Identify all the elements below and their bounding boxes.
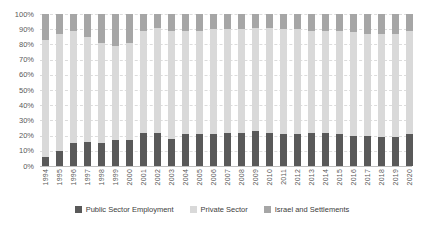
- gridline: [40, 166, 412, 167]
- x-axis-tick-label: 1996: [69, 169, 79, 199]
- x-axis-tick-label: 1998: [97, 169, 107, 199]
- bar-segment: [308, 31, 315, 133]
- bar-segment: [42, 40, 49, 157]
- x-axis-tick-label: 2007: [223, 169, 233, 199]
- x-axis-tick-label: 2020: [405, 169, 415, 199]
- bar-segment: [266, 28, 273, 133]
- x-axis-tick-label: 2015: [335, 169, 345, 199]
- bar-segment: [140, 14, 147, 31]
- bar-segment: [56, 14, 63, 34]
- bar-segment: [210, 29, 217, 134]
- y-axis-tick-label: 80%: [4, 40, 34, 49]
- legend-item: Israel and Settlements: [264, 205, 350, 214]
- bar-segment: [336, 134, 343, 166]
- y-axis-tick-label: 100%: [4, 10, 34, 19]
- bar-segment: [252, 28, 259, 131]
- bar-segment: [196, 31, 203, 134]
- bar-segment: [238, 133, 245, 166]
- bar-segment: [252, 131, 259, 166]
- y-axis-tick-label: 90%: [4, 25, 34, 34]
- bar-segment: [294, 134, 301, 166]
- bar-segment: [182, 134, 189, 166]
- bar-segment: [112, 46, 119, 140]
- bar-segment: [238, 14, 245, 29]
- x-axis-tick-label: 2006: [209, 169, 219, 199]
- bar-segment: [252, 14, 259, 28]
- bar-segment: [392, 137, 399, 166]
- x-axis-tick-label: 2009: [251, 169, 261, 199]
- bar-segment: [56, 34, 63, 151]
- bar-segment: [280, 29, 287, 134]
- legend-swatch: [190, 206, 197, 213]
- legend-label: Public Sector Employment: [86, 205, 174, 214]
- legend-item: Private Sector: [190, 205, 248, 214]
- bar-segment: [392, 14, 399, 34]
- bar-segment: [168, 31, 175, 139]
- x-axis-tick-label: 2002: [153, 169, 163, 199]
- bar-segment: [210, 134, 217, 166]
- legend-swatch: [75, 206, 82, 213]
- bar-segment: [168, 139, 175, 166]
- bar-segment: [336, 14, 343, 31]
- bar-segment: [350, 136, 357, 166]
- bar-segment: [154, 28, 161, 133]
- bar-segment: [224, 133, 231, 166]
- legend-label: Israel and Settlements: [275, 205, 350, 214]
- bar-segment: [154, 14, 161, 28]
- x-axis-tick-label: 2019: [391, 169, 401, 199]
- bar-segment: [42, 157, 49, 166]
- legend-item: Public Sector Employment: [75, 205, 174, 214]
- x-axis-tick-label: 2011: [279, 169, 289, 199]
- bar-segment: [70, 143, 77, 166]
- x-axis-tick-label: 2013: [307, 169, 317, 199]
- bar-segment: [280, 134, 287, 166]
- bar-segment: [140, 133, 147, 166]
- bar-segment: [154, 133, 161, 166]
- x-axis-tick-label: 2000: [125, 169, 135, 199]
- bar-segment: [182, 31, 189, 134]
- x-axis-tick-label: 2012: [293, 169, 303, 199]
- bar-segment: [280, 14, 287, 29]
- bar-segment: [406, 134, 413, 166]
- bar-segment: [56, 151, 63, 166]
- bar-segment: [364, 14, 371, 34]
- x-axis-tick-label: 1997: [83, 169, 93, 199]
- bar-segment: [196, 14, 203, 31]
- bar-segment: [350, 14, 357, 32]
- bar-segment: [266, 14, 273, 28]
- bar-segment: [126, 140, 133, 166]
- bar-segment: [378, 34, 385, 137]
- x-axis-tick-label: 2018: [377, 169, 387, 199]
- bar-segment: [266, 133, 273, 166]
- x-axis-tick-label: 2017: [363, 169, 373, 199]
- bar-segment: [378, 137, 385, 166]
- y-axis-tick-label: 40%: [4, 101, 34, 110]
- y-axis-tick-label: 0%: [4, 162, 34, 171]
- bar-segment: [112, 140, 119, 166]
- bar-segment: [322, 31, 329, 133]
- legend-label: Private Sector: [201, 205, 248, 214]
- bar-segment: [406, 31, 413, 134]
- bar-segment: [84, 37, 91, 142]
- bar-segment: [168, 14, 175, 31]
- bar-segment: [182, 14, 189, 31]
- x-axis-tick-label: 2004: [181, 169, 191, 199]
- bar-segment: [406, 14, 413, 31]
- bar-segment: [308, 133, 315, 166]
- x-axis-tick-label: 2001: [139, 169, 149, 199]
- bar-segment: [322, 14, 329, 31]
- bar-segment: [350, 32, 357, 135]
- x-axis-tick-label: 2008: [237, 169, 247, 199]
- bar-segment: [70, 31, 77, 143]
- bar-segment: [84, 14, 91, 37]
- x-axis-tick-label: 2003: [167, 169, 177, 199]
- x-axis-tick-label: 2005: [195, 169, 205, 199]
- bar-segment: [392, 34, 399, 137]
- x-axis-tick-label: 2014: [321, 169, 331, 199]
- bar-segment: [98, 14, 105, 43]
- bar-segment: [112, 14, 119, 46]
- x-axis-tick-label: 1999: [111, 169, 121, 199]
- y-axis-tick-label: 70%: [4, 55, 34, 64]
- bar-segment: [70, 14, 77, 31]
- bar-segment: [364, 136, 371, 166]
